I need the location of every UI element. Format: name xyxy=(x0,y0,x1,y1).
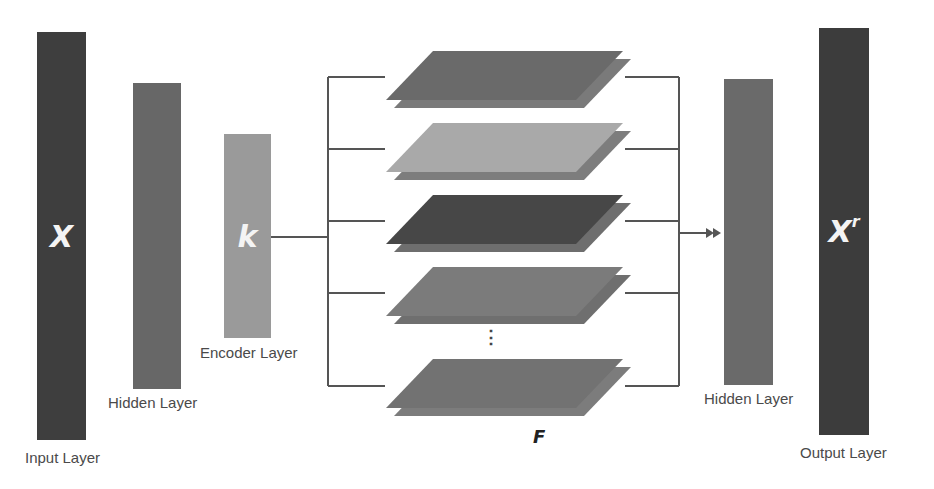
arrow-head-icon xyxy=(706,228,714,238)
output-symbol: Xr xyxy=(828,214,859,249)
input-layer-label: Input Layer xyxy=(25,449,100,466)
input-symbol: X xyxy=(50,219,73,254)
left-stubs xyxy=(328,77,385,386)
encoder-symbol: k xyxy=(238,219,258,254)
hidden-layer-left-label: Hidden Layer xyxy=(108,394,197,411)
input-layer-bar: X xyxy=(37,32,86,440)
ellipsis: ⋮ xyxy=(482,326,500,348)
hidden-layer-left-bar xyxy=(133,83,181,389)
hidden-layer-right-label: Hidden Layer xyxy=(704,390,793,407)
encoder-layer-label: Encoder Layer xyxy=(200,344,298,361)
feature-map-sheets xyxy=(386,51,631,416)
autoencoder-diagram: X Input Layer Hidden Layer k Encoder Lay… xyxy=(0,0,934,489)
output-layer-bar: Xr xyxy=(819,28,869,435)
encoder-layer-bar: k xyxy=(224,134,271,338)
arrow-head-icon xyxy=(713,228,721,238)
right-stubs xyxy=(625,77,679,386)
output-layer-label: Output Layer xyxy=(800,444,887,461)
hidden-layer-right-bar xyxy=(724,79,773,385)
feature-maps-label: F xyxy=(533,426,545,447)
